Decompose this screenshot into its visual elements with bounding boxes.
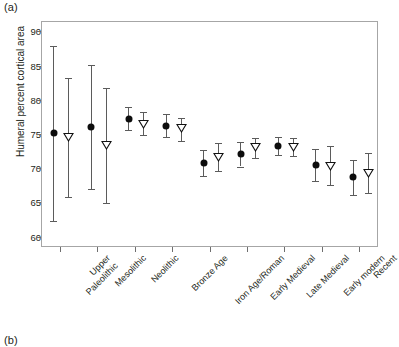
error-bar-cap <box>103 88 110 89</box>
x-axis-labels: Upper PaleolithicMesolithicNeolithicBron… <box>41 253 378 343</box>
error-bar-cap <box>312 149 319 150</box>
error-bar-cap <box>200 150 207 151</box>
error-bar-cap <box>125 107 132 108</box>
error-bar-cap <box>365 193 372 194</box>
data-point-marker-triangle <box>250 142 261 152</box>
x-tick-mark <box>135 247 136 252</box>
error-bar-cap <box>275 137 282 138</box>
error-bar-cap <box>327 185 334 186</box>
error-bar-cap <box>312 181 319 182</box>
data-point-marker-triangle <box>325 161 336 171</box>
error-bar-cap <box>237 167 244 168</box>
panel-b-label: (b) <box>4 334 18 346</box>
data-point-marker-triangle <box>363 168 374 178</box>
error-bar-cap <box>88 65 95 66</box>
x-tick-mark <box>284 247 285 252</box>
error-bar-cap <box>215 171 222 172</box>
error-bar-cap <box>237 142 244 143</box>
data-point-marker-circle <box>163 123 170 130</box>
error-bar-cap <box>50 221 57 222</box>
error-bar-cap <box>252 158 259 159</box>
x-tick-mark <box>359 247 360 252</box>
error-bar-cap <box>178 118 185 119</box>
error-bar-cap <box>163 137 170 138</box>
data-point-marker-triangle <box>101 140 112 150</box>
error-bar-cap <box>178 141 185 142</box>
error-bar-cap <box>327 146 334 147</box>
error-bar-cap <box>215 143 222 144</box>
error-bar-cap <box>350 195 357 196</box>
error-bar-cap <box>200 176 207 177</box>
x-tick-mark <box>247 247 248 252</box>
error-bar-cap <box>65 78 72 79</box>
x-tick-label: Upper Paleolithic <box>76 253 120 297</box>
error-bar-cap <box>103 203 110 204</box>
error-bar-cap <box>125 130 132 131</box>
data-point-marker-circle <box>312 162 319 169</box>
data-point-marker-triangle <box>213 152 224 162</box>
data-point-marker-circle <box>88 124 95 131</box>
error-bar-cap <box>350 160 357 161</box>
error-bar-cap <box>50 46 57 47</box>
x-tick-mark <box>60 247 61 252</box>
y-axis-ticks: 60657075808590 <box>11 21 41 247</box>
x-tick-mark <box>172 247 173 252</box>
error-bar-cap <box>163 114 170 115</box>
data-point-marker-triangle <box>288 142 299 152</box>
error-bar-cap <box>290 138 297 139</box>
data-point-marker-triangle <box>138 119 149 129</box>
data-point-marker-circle <box>350 174 357 181</box>
data-series-layer <box>42 22 379 248</box>
error-bar-cap <box>88 189 95 190</box>
data-point-marker-triangle <box>63 132 74 142</box>
x-tick-label: Neolithic <box>149 253 181 285</box>
error-bar-cap <box>275 155 282 156</box>
error-bar-cap <box>140 112 147 113</box>
data-point-marker-circle <box>50 129 57 136</box>
data-point-marker-circle <box>200 160 207 167</box>
x-tick-mark <box>210 247 211 252</box>
x-tick-mark <box>322 247 323 252</box>
data-point-marker-triangle <box>176 123 187 133</box>
error-bar-cap <box>65 197 72 198</box>
x-tick-label: Bronze Age <box>190 253 230 293</box>
x-tick-mark <box>97 247 98 252</box>
data-point-marker-circle <box>237 151 244 158</box>
error-bar-cap <box>365 153 372 154</box>
x-tick-label: Mesolithic <box>113 253 149 289</box>
plot-area <box>41 21 378 247</box>
error-bar-cap <box>140 135 147 136</box>
data-point-marker-circle <box>275 142 282 149</box>
error-bar-cap <box>252 138 259 139</box>
error-bar-cap <box>290 156 297 157</box>
data-point-marker-circle <box>125 115 132 122</box>
